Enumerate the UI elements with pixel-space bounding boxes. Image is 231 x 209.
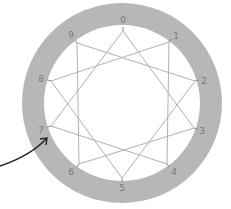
digit-label-0: 0 [120, 15, 126, 25]
digit-label-5: 5 [119, 183, 125, 193]
star-polygon-diagram: 0123456789 [0, 0, 231, 209]
digit-label-3: 3 [199, 126, 205, 136]
digit-label-8: 8 [38, 74, 44, 84]
digit-label-7: 7 [38, 125, 44, 135]
digit-label-6: 6 [68, 167, 74, 177]
digit-label-4: 4 [171, 167, 177, 177]
digit-label-2: 2 [201, 76, 207, 86]
digit-label-9: 9 [68, 30, 74, 40]
digit-label-1: 1 [173, 31, 179, 41]
